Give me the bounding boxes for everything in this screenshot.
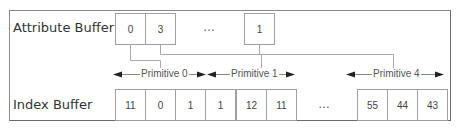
index-cell: 0 (145, 89, 176, 121)
index-cell: 43 (417, 89, 448, 121)
primitive-1-label: Primitive 1 (230, 68, 279, 79)
index-cell: 11 (266, 89, 297, 121)
index-cell: 1 (205, 89, 236, 121)
index-buffer-label: Index Buffer (13, 97, 92, 112)
primitive-0-label: Primitive 0 (140, 68, 189, 79)
index-ellipsis: … (318, 97, 330, 111)
index-cell: 12 (236, 89, 267, 121)
index-cell: 44 (387, 89, 418, 121)
index-cell: 1 (175, 89, 206, 121)
primitive-4-label: Primitive 4 (372, 68, 421, 79)
index-cell: 11 (115, 89, 146, 121)
index-cell: 55 (357, 89, 388, 121)
